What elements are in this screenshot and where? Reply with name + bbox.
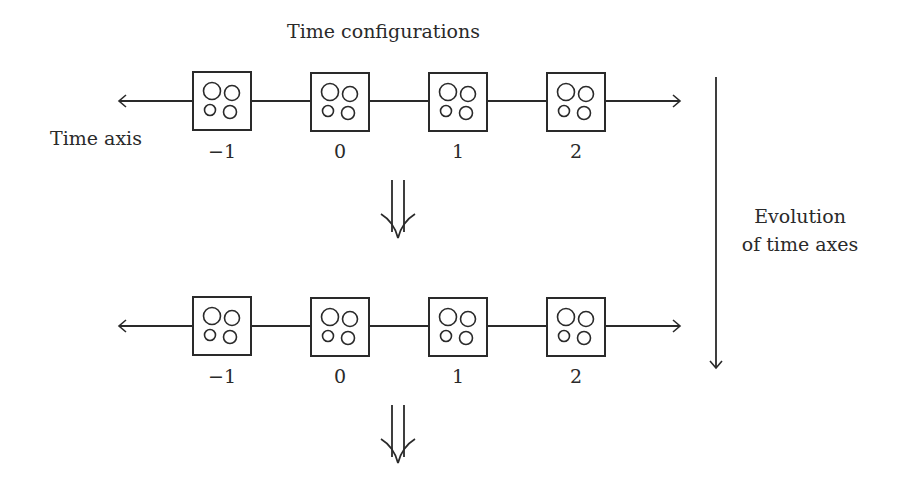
tick-label: 1 (452, 365, 464, 387)
tick-label: 0 (334, 365, 346, 387)
configuration-box-icon (429, 73, 487, 131)
configuration-box-icon (547, 73, 605, 131)
time-axis-label: Time axis (50, 127, 142, 149)
evolution-label-line2: of time axes (730, 230, 870, 258)
double-down-arrow-icon (381, 405, 415, 463)
evolution-arrow-icon (710, 77, 722, 368)
evolution-label: Evolution of time axes (730, 202, 870, 258)
tick-label: −1 (208, 140, 236, 162)
tick-label: 2 (570, 140, 582, 162)
tick-label: 1 (452, 140, 464, 162)
time-axis-row-2 (119, 297, 680, 356)
configuration-box-icon (429, 298, 487, 356)
evolution-label-line1: Evolution (730, 202, 870, 230)
tick-label: 0 (334, 140, 346, 162)
double-down-arrow-icon (381, 180, 415, 238)
time-axis-row-1 (119, 72, 680, 131)
configuration-box-icon (311, 298, 369, 356)
configuration-box-icon (547, 298, 605, 356)
configuration-box-icon (193, 72, 251, 130)
diagram-title: Time configurations (287, 20, 480, 42)
configuration-box-icon (311, 73, 369, 131)
configuration-box-icon (193, 297, 251, 355)
tick-label: 2 (570, 365, 582, 387)
tick-label: −1 (208, 365, 236, 387)
